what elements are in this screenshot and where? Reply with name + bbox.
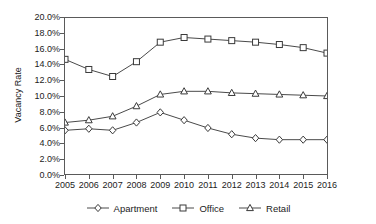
chart-legend: ApartmentOfficeRetail bbox=[0, 198, 376, 218]
vacancy-rate-line-chart: Vacancy Rate 20.0%18.0%16.0%14.0%12.0%10… bbox=[0, 0, 376, 224]
y-axis-tick: 16.0% bbox=[2, 43, 60, 55]
x-axis-tick-label: 2008 bbox=[126, 180, 146, 190]
series-line bbox=[65, 91, 327, 122]
y-axis-tick-label: 6.0% bbox=[39, 123, 60, 133]
y-axis-tick: 2.0% bbox=[2, 153, 60, 165]
plot-area bbox=[64, 17, 328, 175]
y-axis-tick-label: 4.0% bbox=[39, 138, 60, 148]
x-axis-tick-label: 2012 bbox=[222, 180, 242, 190]
x-axis-tick-label: 2014 bbox=[269, 180, 289, 190]
x-axis-tick-mark bbox=[327, 175, 328, 179]
x-axis-tick-mark bbox=[65, 175, 66, 179]
x-axis-tick-label: 2016 bbox=[317, 180, 337, 190]
legend-label: Apartment bbox=[114, 203, 158, 214]
data-point bbox=[253, 39, 259, 45]
legend-label: Office bbox=[199, 203, 224, 214]
y-axis-tick-label: 20.0% bbox=[34, 12, 60, 22]
y-axis-tick-label: 16.0% bbox=[34, 44, 60, 54]
x-axis-tick-mark bbox=[160, 175, 161, 179]
x-axis-tick-label: 2005 bbox=[55, 180, 75, 190]
data-point bbox=[133, 59, 139, 65]
y-axis-tick-label: 0.0% bbox=[39, 170, 60, 180]
legend-label: Retail bbox=[266, 203, 290, 214]
data-point bbox=[157, 39, 163, 45]
x-axis-tick-label: 2011 bbox=[198, 180, 217, 190]
data-point bbox=[133, 103, 140, 109]
y-axis-tick: 20.0% bbox=[2, 11, 60, 23]
legend-marker-triangle-icon bbox=[238, 202, 262, 214]
x-axis-tick-label: 2007 bbox=[103, 180, 123, 190]
data-point bbox=[229, 131, 235, 138]
y-axis-tick: 12.0% bbox=[2, 74, 60, 86]
data-point bbox=[324, 50, 327, 56]
series-line bbox=[65, 38, 327, 77]
data-point bbox=[205, 124, 211, 131]
data-point bbox=[181, 35, 187, 41]
legend-marker-square-icon bbox=[171, 202, 195, 214]
data-point bbox=[252, 135, 258, 142]
y-axis-tick-label: 8.0% bbox=[39, 107, 60, 117]
data-point bbox=[86, 125, 92, 132]
y-axis-tick-label: 18.0% bbox=[34, 28, 60, 38]
x-axis-tick-mark bbox=[256, 175, 257, 179]
y-axis-tick: 6.0% bbox=[2, 122, 60, 134]
x-axis-tick-mark bbox=[89, 175, 90, 179]
data-point bbox=[205, 36, 211, 42]
data-point bbox=[181, 117, 187, 124]
data-point bbox=[133, 119, 139, 126]
legend-item-retail[interactable]: Retail bbox=[238, 202, 290, 214]
x-axis-tick-mark bbox=[303, 175, 304, 179]
x-axis-tick-label: 2006 bbox=[79, 180, 99, 190]
data-point bbox=[65, 127, 68, 134]
x-axis-tick-label: 2009 bbox=[150, 180, 170, 190]
legend-marker-diamond-icon bbox=[86, 202, 110, 214]
y-axis-tick-label: 10.0% bbox=[34, 91, 60, 101]
x-axis-tick-mark bbox=[279, 175, 280, 179]
y-axis-tick: 0.0% bbox=[2, 169, 60, 181]
y-axis-tick: 18.0% bbox=[2, 27, 60, 39]
data-point bbox=[65, 56, 68, 62]
x-axis-tick-mark bbox=[136, 175, 137, 179]
series-canvas bbox=[65, 18, 327, 174]
data-point bbox=[110, 74, 116, 80]
data-point bbox=[157, 109, 163, 116]
series-apartment bbox=[65, 109, 327, 144]
x-axis-tick-label: 2015 bbox=[293, 180, 313, 190]
series-line bbox=[65, 112, 327, 139]
data-point bbox=[229, 38, 235, 44]
y-axis-tick: 8.0% bbox=[2, 106, 60, 118]
y-axis-tick-label: 14.0% bbox=[34, 59, 60, 69]
x-axis-tick-mark bbox=[184, 175, 185, 179]
y-axis-tick: 14.0% bbox=[2, 58, 60, 70]
data-point bbox=[300, 45, 306, 51]
data-point bbox=[86, 66, 92, 72]
x-axis-tick-mark bbox=[208, 175, 209, 179]
legend-item-apartment[interactable]: Apartment bbox=[86, 202, 158, 214]
x-axis-tick-mark bbox=[232, 175, 233, 179]
x-axis-tick-mark bbox=[113, 175, 114, 179]
series-retail bbox=[65, 88, 327, 125]
y-axis-tick-label: 2.0% bbox=[39, 154, 60, 164]
data-point bbox=[324, 136, 327, 143]
data-point bbox=[276, 42, 282, 48]
x-axis-tick-label: 2013 bbox=[246, 180, 266, 190]
x-axis-tick-label: 2010 bbox=[174, 180, 194, 190]
data-point bbox=[109, 127, 115, 134]
y-axis-tick-label: 12.0% bbox=[34, 75, 60, 85]
y-axis-tick-mark bbox=[60, 175, 64, 176]
series-office bbox=[65, 35, 327, 80]
data-point bbox=[300, 136, 306, 143]
data-point bbox=[276, 136, 282, 143]
legend-item-office[interactable]: Office bbox=[171, 202, 224, 214]
y-axis-tick: 4.0% bbox=[2, 137, 60, 149]
y-axis-tick: 10.0% bbox=[2, 90, 60, 102]
